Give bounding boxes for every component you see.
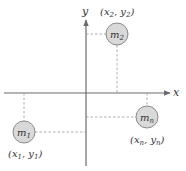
coordinate-diagram: x y m2 (x2, y2) m1 (x1, y1) mn (xn, yn) <box>0 0 186 171</box>
mn-coordinates: (xn, yn) <box>130 134 165 147</box>
mass-m1: m1 (x1, y1) <box>8 93 86 161</box>
mass-m2: m2 (x2, y2) <box>86 6 135 93</box>
y-axis-label: y <box>81 5 89 18</box>
m1-coordinates: (x1, y1) <box>8 148 43 161</box>
mass-mn: mn (xn, yn) <box>86 93 165 147</box>
x-axis-label: x <box>173 86 180 99</box>
m2-coordinates: (x2, y2) <box>100 6 135 19</box>
